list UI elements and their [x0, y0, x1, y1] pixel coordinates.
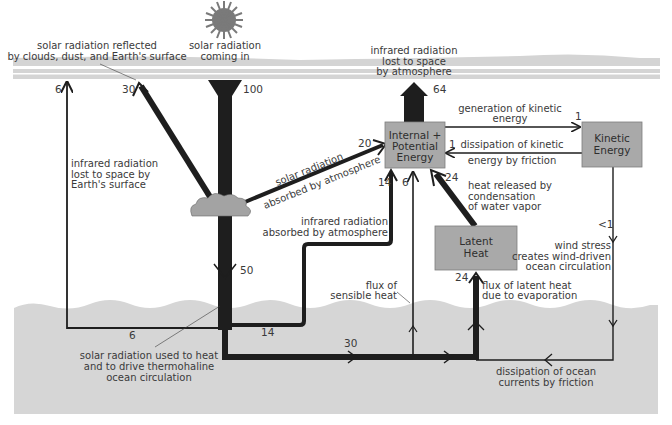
leader-sensible: [397, 292, 410, 303]
value-latent-evap: 24: [455, 271, 469, 283]
energy-flow-diagram: Internal + Potential Energy Kinetic Ener…: [0, 0, 672, 425]
label-reflected-1: solar radiation reflected: [37, 40, 157, 51]
value-surface-ir-out: 6: [129, 329, 136, 341]
value-solar-absorbed: 20: [358, 137, 371, 149]
kinetic-label-2: Energy: [594, 144, 631, 156]
label-gen-kinetic-2: energy: [493, 113, 528, 124]
value-reflected: 30: [122, 83, 135, 95]
value-to-surface: 50: [240, 264, 253, 276]
label-solar-ocean-2: and to drive thermohaline: [84, 361, 214, 372]
label-diss-kinetic-1: dissipation of kinetic: [460, 139, 563, 150]
label-solar-ocean-3: ocean circulation: [106, 372, 191, 383]
value-ocean-store: 30: [344, 337, 357, 349]
label-ir-absorbed-2: absorbed by atmosphere: [263, 227, 388, 238]
label-wind-1: wind stress: [555, 240, 611, 251]
label-solar-ocean-1: solar radiation used to heat: [80, 350, 218, 361]
flow-solar-absorbed: [245, 145, 383, 202]
label-sensible-2: sensible heat: [330, 290, 397, 301]
label-solar-in-2: coming in: [200, 51, 249, 62]
flow-reflected: [141, 86, 212, 200]
label-ir-surface-1: infrared radiation: [71, 158, 158, 169]
latent-label-1: Latent: [459, 235, 493, 247]
sun-icon: [205, 1, 243, 39]
label-ir-atm-3: by atmosphere: [376, 66, 451, 77]
label-ir-atm-1: infrared radiation: [370, 45, 457, 56]
label-reflected-2: by clouds, dust, and Earth's surface: [7, 51, 186, 62]
value-wind-stress: <1: [598, 218, 613, 230]
value-ir-atm-lost: 64: [433, 83, 447, 95]
label-wind-3: ocean circulation: [526, 261, 611, 272]
label-ir-absorbed-1: infrared radiation: [301, 216, 388, 227]
label-ocean-diss-1: dissipation of ocean: [496, 366, 596, 377]
value-ir-surface-lost: 6: [55, 83, 62, 95]
value-gen-kinetic: 1: [575, 110, 582, 122]
cloud-icon: [191, 193, 251, 216]
value-surface-ir-branch: 14: [261, 326, 275, 338]
label-heat-released-3: of water vapor: [468, 201, 542, 212]
latent-label-2: Heat: [464, 247, 489, 259]
label-diss-kinetic-2: energy by friction: [468, 155, 557, 166]
value-latent-release: 24: [445, 171, 459, 183]
value-solar-in: 100: [243, 83, 263, 95]
internal-label-3: Energy: [397, 151, 434, 163]
label-ocean-diss-2: currents by friction: [499, 377, 594, 388]
label-heat-released-1: heat released by: [468, 180, 552, 191]
value-ir-absorbed: 14: [378, 176, 392, 188]
value-diss-kinetic: 1: [449, 138, 456, 150]
label-solar-in-1: solar radiation: [189, 40, 261, 51]
kinetic-label-1: Kinetic: [594, 132, 630, 144]
value-sensible: 6: [402, 176, 409, 188]
label-latent-flux-2: due to evaporation: [482, 290, 577, 301]
label-ir-surface-3: Earth's surface: [71, 179, 146, 190]
flow-ir-absorbed: [226, 172, 391, 325]
